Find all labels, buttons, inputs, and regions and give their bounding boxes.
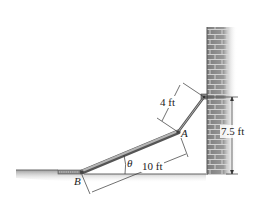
diagram-canvas: 7.5 ft 4 ft 10 ft θ A B bbox=[0, 0, 259, 215]
label-7-5-ft: 7.5 ft bbox=[221, 125, 244, 137]
label-point-a: A bbox=[180, 127, 188, 139]
label-4-ft: 4 ft bbox=[160, 96, 175, 108]
ground bbox=[16, 170, 206, 183]
label-point-b: B bbox=[74, 175, 81, 187]
wall-pin bbox=[201, 94, 207, 99]
pin-b bbox=[80, 170, 84, 174]
label-theta: θ bbox=[127, 157, 133, 169]
label-10-ft: 10 ft bbox=[142, 160, 162, 172]
roller-support-b bbox=[58, 170, 82, 174]
angle-arc bbox=[124, 155, 126, 174]
